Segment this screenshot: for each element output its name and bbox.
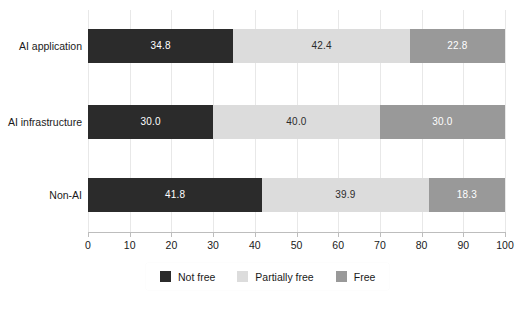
chart-legend: Not freePartially freeFree — [146, 263, 389, 290]
gridline — [505, 10, 506, 232]
stacked-bar-chart: 34.842.422.830.040.030.041.839.918.3 AI … — [0, 0, 530, 311]
x-axis-tick-label: 20 — [166, 239, 178, 251]
y-axis-label: AI application — [0, 40, 82, 52]
x-axis-tick-label: 40 — [249, 239, 261, 251]
legend-label: Partially free — [255, 271, 313, 283]
bar-segment: 42.4 — [233, 29, 410, 63]
x-axis-tick — [380, 232, 381, 237]
x-axis-tick — [297, 232, 298, 237]
plot-area: 34.842.422.830.040.030.041.839.918.3 — [88, 10, 505, 232]
bar-row: 34.842.422.8 — [88, 29, 505, 63]
legend-label: Free — [354, 271, 376, 283]
bar-segment: 30.0 — [88, 105, 213, 139]
x-axis-tick — [130, 232, 131, 237]
x-axis-tick-label: 70 — [374, 239, 386, 251]
bar-segment: 39.9 — [262, 178, 428, 212]
legend-label: Not free — [178, 271, 215, 283]
bar-segment: 40.0 — [213, 105, 380, 139]
x-axis-tick-label: 30 — [207, 239, 219, 251]
x-axis-tick — [505, 232, 506, 237]
y-axis-label: Non-AI — [0, 189, 82, 201]
x-axis-tick-label: 100 — [496, 239, 514, 251]
y-axis-label: AI infrastructure — [0, 116, 82, 128]
bar-row: 41.839.918.3 — [88, 178, 505, 212]
bar-segment: 34.8 — [88, 29, 233, 63]
x-axis-tick — [213, 232, 214, 237]
bar-segment: 30.0 — [380, 105, 505, 139]
x-axis-tick-label: 90 — [457, 239, 469, 251]
legend-item[interactable]: Free — [336, 271, 376, 283]
legend-swatch-icon — [336, 271, 347, 282]
x-axis-tick-label: 0 — [85, 239, 91, 251]
bar-segment: 18.3 — [429, 178, 505, 212]
bar-segment: 22.8 — [410, 29, 505, 63]
x-axis-tick — [255, 232, 256, 237]
x-axis-tick — [338, 232, 339, 237]
bar-segment: 41.8 — [88, 178, 262, 212]
x-axis-tick-label: 50 — [291, 239, 303, 251]
legend-swatch-icon — [237, 271, 248, 282]
legend-item[interactable]: Not free — [160, 271, 215, 283]
x-axis-tick — [171, 232, 172, 237]
bar-row: 30.040.030.0 — [88, 105, 505, 139]
legend-item[interactable]: Partially free — [237, 271, 313, 283]
x-axis-tick — [88, 232, 89, 237]
x-axis-tick-label: 80 — [416, 239, 428, 251]
x-axis-tick-label: 10 — [124, 239, 136, 251]
legend-swatch-icon — [160, 271, 171, 282]
x-axis-tick — [422, 232, 423, 237]
x-axis-tick-label: 60 — [332, 239, 344, 251]
x-axis-tick — [463, 232, 464, 237]
